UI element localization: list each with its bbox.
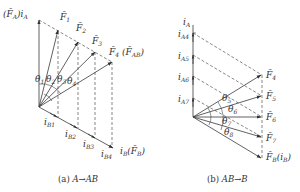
theta3-label: θ3 bbox=[57, 74, 66, 85]
fb-ib-label: F̄B(iB) bbox=[265, 151, 291, 163]
ib-axis-label: iB(F̄B) bbox=[120, 145, 146, 157]
f4-fab-label: F̄4 (F̄AB) bbox=[108, 46, 144, 58]
ia7-label: iA7 bbox=[178, 94, 189, 105]
f4-label-b: F̄4 bbox=[265, 69, 276, 81]
f5-label: F̄5 bbox=[265, 90, 276, 102]
diagram-a: (F̄A)iA F̄1 F̄2 F̄3 F̄4 (F̄AB) θ1 θ2 θ3 … bbox=[3, 8, 146, 184]
ib2-label: iB2 bbox=[65, 129, 76, 140]
ia-axis-label: (F̄A)iA bbox=[3, 8, 29, 20]
theta6-label: θ6 bbox=[228, 104, 237, 115]
ib1-segment-arrow bbox=[50, 113, 57, 117]
theta2-label: θ2 bbox=[46, 74, 55, 85]
ib3-label: iB3 bbox=[83, 139, 94, 150]
f6-label: F̄6 bbox=[265, 111, 276, 123]
ia-axis-label-b: iA bbox=[183, 17, 191, 28]
f3-label: F̄3 bbox=[91, 35, 102, 47]
theta1-label: θ1 bbox=[35, 74, 44, 85]
vector-diagram-canvas: (F̄A)iA F̄1 F̄2 F̄3 F̄4 (F̄AB) θ1 θ2 θ3 … bbox=[0, 0, 300, 192]
theta7-label: θ7 bbox=[222, 116, 231, 127]
caption-a: (a) A→AB bbox=[58, 174, 98, 184]
ia6-label: iA6 bbox=[178, 72, 189, 83]
f2-label: F̄2 bbox=[75, 22, 86, 34]
ib3-segment-arrow bbox=[88, 134, 95, 138]
theta4-label: θ4 bbox=[67, 76, 76, 87]
theta5-label: θ5 bbox=[222, 93, 231, 104]
ia4-label: iA4 bbox=[178, 29, 189, 40]
angle-arc-b-inner bbox=[208, 108, 211, 125]
f1-vector-arrow bbox=[39, 30, 58, 107]
ib1-label: iB1 bbox=[44, 117, 55, 128]
caption-b: (b) AB→B bbox=[207, 174, 248, 184]
ia5-label: iA5 bbox=[178, 51, 189, 62]
ib2-segment-arrow bbox=[70, 124, 77, 128]
f7-label: F̄7 bbox=[265, 132, 276, 144]
f1-label: F̄1 bbox=[59, 11, 70, 23]
ib4-label: iB4 bbox=[101, 149, 112, 160]
projection-line-a4 bbox=[193, 33, 262, 75]
projection-line-a5 bbox=[193, 55, 262, 96]
diagram-b: iA iA4 iA5 iA6 iA7 F̄4 F̄5 F̄6 F̄7 F̄B(i… bbox=[178, 17, 291, 184]
